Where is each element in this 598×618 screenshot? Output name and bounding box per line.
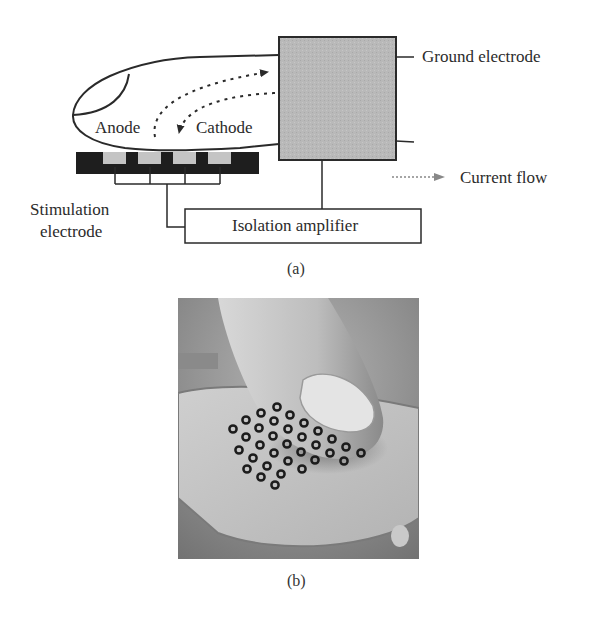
ground-electrode-box (279, 37, 396, 160)
figure: Anode Cathode Ground electrode Current f… (0, 0, 598, 618)
cathode-label: Cathode (196, 119, 253, 136)
current-flow-label: Current flow (460, 169, 547, 186)
ground-electrode-label: Ground electrode (422, 48, 540, 65)
anode-label: Anode (95, 119, 140, 136)
isolation-amplifier-label: Isolation amplifier (232, 217, 358, 234)
panel-a-caption: (a) (287, 261, 305, 277)
fingertip-electrode-photo (178, 298, 419, 559)
stimulation-electrode-label-line2: electrode (40, 223, 102, 240)
panel-b-caption: (b) (287, 573, 306, 589)
stimulation-electrode-label-line1: Stimulation (30, 201, 109, 218)
